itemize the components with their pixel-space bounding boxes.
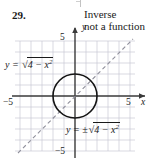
y-axis-name: y <box>82 22 86 32</box>
y-axis-label-positive-5: 5 <box>60 32 65 42</box>
equation-lower-term-a: 4 <box>94 124 99 135</box>
coordinate-plot <box>0 0 155 164</box>
x-axis-label-negative-5: −5 <box>3 97 13 107</box>
y-axis-arrow <box>72 27 78 33</box>
x-axis-label-positive-5: 5 <box>126 97 131 107</box>
equation-upper-lhs: y = <box>5 59 19 70</box>
equation-upper-radicand: 4 − x2 <box>27 57 54 70</box>
equation-lower-full-relation: y = ±√4 − x2 <box>66 122 120 135</box>
equation-lower-radical: √4 − x2 <box>88 122 120 135</box>
x-axis-name: x <box>141 97 145 107</box>
equation-lower-radicand: 4 − x2 <box>93 122 120 135</box>
equation-upper-semicircle: y = √4 − x2 <box>5 57 53 70</box>
equation-upper-minus: − <box>35 59 42 70</box>
equation-upper-radical: √4 − x2 <box>21 57 53 70</box>
equation-lower-lhs: y = <box>66 124 80 135</box>
equation-lower-minus: − <box>102 124 109 135</box>
equation-upper-exponent: 2 <box>49 58 53 66</box>
equation-lower-exponent: 2 <box>115 123 119 131</box>
math-figure-29: 29. Inverse not a function <box>0 0 155 164</box>
y-axis-label-negative-5: −5 <box>55 146 65 156</box>
equation-upper-term-a: 4 <box>28 59 33 70</box>
